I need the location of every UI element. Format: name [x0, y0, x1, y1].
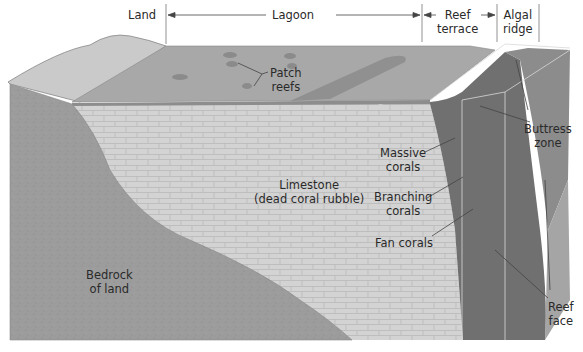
label-limestone: Limestone(dead coral rubble): [254, 178, 364, 206]
zone-label-lagoon: Lagoon: [272, 8, 314, 22]
label-massive-corals: Massivecorals: [380, 146, 426, 174]
zone-label-land: Land: [128, 8, 156, 22]
label-fan-corals: Fan corals: [375, 236, 433, 250]
label-reef-face: Reefface: [548, 300, 574, 328]
zone-label-reef-terrace: Reefterrace: [437, 8, 478, 36]
label-buttress-zone: Buttresszone: [524, 122, 572, 150]
label-patch-reefs: Patchreefs: [270, 66, 302, 94]
zone-label-algal-ridge: Algalridge: [503, 8, 533, 36]
coral-reef-diagram: [0, 0, 583, 352]
label-branching-corals: Branchingcorals: [374, 190, 432, 218]
label-bedrock: Bedrockof land: [86, 268, 133, 296]
